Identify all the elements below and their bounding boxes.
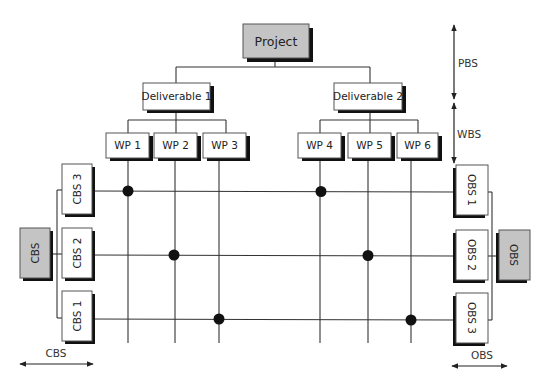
wp-1-node: WP 1 [106, 133, 153, 161]
obs-dimension-label: OBS [471, 349, 493, 361]
wp-5-label: WP 5 [356, 139, 383, 151]
project-node: Project [243, 24, 313, 62]
intersection-wp2-cbs2 [169, 250, 180, 261]
cbs-dimension-label: CBS [45, 347, 66, 359]
obs-root-node: OBS [496, 230, 530, 283]
cbs-root-label: CBS [29, 242, 41, 263]
intersection-wp5-obs2 [363, 250, 374, 261]
pbs-label: PBS [458, 57, 478, 69]
obs-dimension: OBS [452, 349, 507, 366]
wp-1-label: WP 1 [114, 139, 141, 151]
obs-3-label: OBS 3 [466, 302, 478, 334]
matrix-grid [92, 158, 456, 343]
cbs-wbs-obs-matrix-diagram: Project Deliverable 1 Deliverable 2 WP 1… [0, 0, 549, 385]
obs-1-node: OBS 1 [453, 165, 488, 218]
cbs-dimension: CBS [20, 347, 93, 364]
cbs-2-node: CBS 2 [62, 228, 95, 281]
wp-6-node: WP 6 [397, 133, 442, 161]
wp-2-label: WP 2 [162, 139, 189, 151]
obs-root-label: OBS [508, 244, 520, 266]
cbs-3-label: CBS 3 [71, 173, 83, 204]
cbs-3-node: CBS 3 [62, 164, 95, 217]
deliverable-1-label: Deliverable 1 [142, 90, 212, 102]
wp-4-label: WP 4 [306, 139, 333, 151]
wp-3-label: WP 3 [211, 139, 238, 151]
wp-2-node: WP 2 [154, 133, 201, 161]
wp-4-node: WP 4 [298, 133, 345, 161]
cbs-1-node: CBS 1 [62, 291, 95, 344]
obs-2-label: OBS 2 [466, 239, 478, 271]
obs-3-node: OBS 3 [453, 293, 488, 346]
deliverable-1-node: Deliverable 1 [142, 83, 214, 113]
obs-1-label: OBS 1 [466, 174, 478, 206]
project-label: Project [255, 34, 298, 49]
intersection-wp1-cbs3 [123, 186, 134, 197]
cbs-2-label: CBS 2 [71, 237, 83, 268]
cbs-1-label: CBS 1 [71, 300, 83, 331]
deliverable-2-label: Deliverable 2 [333, 90, 403, 102]
pbs-dimension: PBS [454, 25, 478, 99]
obs-2-node: OBS 2 [453, 230, 488, 283]
wp-3-node: WP 3 [203, 133, 250, 161]
wbs-label: WBS [457, 128, 481, 140]
wp-5-node: WP 5 [348, 133, 395, 161]
cbs-root-node: CBS [20, 228, 53, 281]
intersection-wp6-obs3 [406, 315, 417, 326]
intersection-wp4-obs1 [316, 186, 327, 197]
intersection-wp3-cbs1 [214, 314, 225, 325]
wp-6-label: WP 6 [404, 139, 431, 151]
wbs-dimension: WBS [454, 103, 481, 163]
deliverable-2-node: Deliverable 2 [333, 83, 406, 113]
